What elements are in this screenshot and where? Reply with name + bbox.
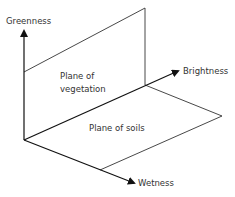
vegetation-plane-label-line2: vegetation bbox=[60, 84, 106, 94]
vegetation-plane-label-line1: Plane of bbox=[60, 71, 95, 81]
wetness-label: Wetness bbox=[138, 178, 175, 188]
wetness-axis bbox=[24, 140, 134, 183]
soil-plane-label: Plane of soils bbox=[89, 123, 145, 133]
greenness-label: Greenness bbox=[6, 16, 52, 26]
tasseled-cap-diagram: Greenness Brightness Wetness Plane of ve… bbox=[0, 0, 235, 197]
brightness-label: Brightness bbox=[183, 66, 229, 76]
